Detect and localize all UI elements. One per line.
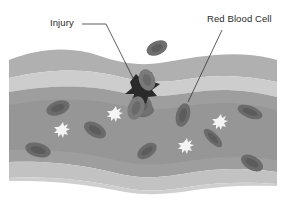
red-blood-cell-escaped — [144, 37, 170, 59]
injury-label: Injury — [50, 17, 74, 28]
red-blood-cell-label: Red Blood Cell — [207, 13, 272, 24]
blood-vessel-diagram — [0, 0, 288, 202]
